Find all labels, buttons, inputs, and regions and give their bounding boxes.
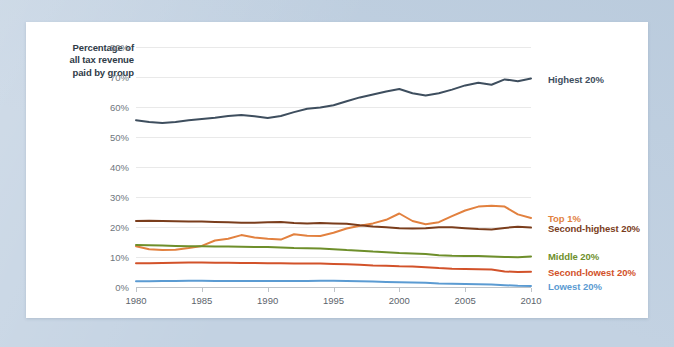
series-line-lowest-20 (136, 281, 531, 286)
series-label-highest-20: Highest 20% (548, 75, 604, 85)
series-label-middle-20: Middle 20% (548, 252, 599, 262)
series-label-second-highest-20: Second-highest 20% (548, 224, 640, 234)
series-line-second-highest-20 (136, 221, 531, 230)
chart-card: Percentage ofall tax revenuepaid by grou… (26, 22, 648, 318)
series-line-second-lowest-20 (136, 262, 531, 272)
line-chart: Percentage ofall tax revenuepaid by grou… (26, 22, 648, 318)
series-line-highest-20 (136, 79, 531, 123)
series-label-second-lowest-20: Second-lowest 20% (548, 268, 636, 278)
series-label-lowest-20: Lowest 20% (548, 282, 602, 292)
series-line-middle-20 (136, 245, 531, 257)
